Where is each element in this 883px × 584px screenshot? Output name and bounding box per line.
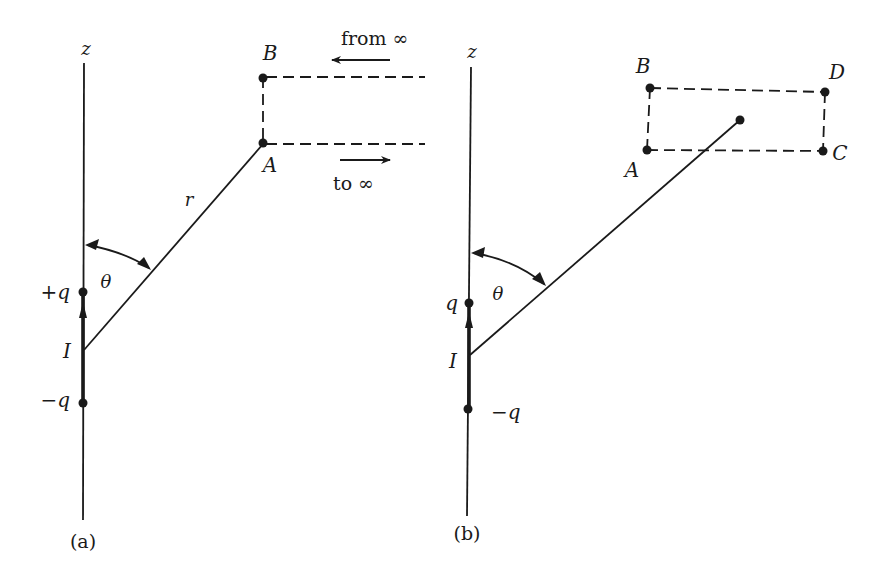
caption-b: (b) <box>454 522 481 544</box>
plus-charge-dot <box>465 299 474 308</box>
z-label-a: z <box>80 38 91 59</box>
plus-q-label-a: +q <box>40 280 70 304</box>
field-point-dot <box>736 116 745 125</box>
radius-line-b <box>470 120 740 355</box>
point-a-dot <box>643 146 652 155</box>
label-b-b: B <box>635 54 651 78</box>
radius-line-a <box>84 144 263 350</box>
dipole-arrow-icon <box>465 312 473 328</box>
plus-q-label-b: q <box>445 291 458 315</box>
label-a-b: A <box>623 158 639 182</box>
point-d-dot <box>821 88 830 97</box>
path-segment-ac <box>647 150 823 151</box>
point-a-dot <box>259 139 268 148</box>
arc-arrow-icon <box>85 239 99 250</box>
plus-charge-dot <box>79 288 88 297</box>
from-infinity-label: from ∞ <box>341 27 408 49</box>
dipole-arrow-icon <box>79 302 87 318</box>
point-c-dot <box>819 147 828 156</box>
label-b-a: B <box>262 41 278 65</box>
panel-a: z B A from ∞ to ∞ r θ +q I −q (a) <box>40 27 425 552</box>
path-segment-ab <box>647 88 650 150</box>
i-label-a: I <box>62 339 72 363</box>
r-label: r <box>185 189 195 210</box>
path-segment-dc <box>823 92 825 151</box>
minus-q-label-a: −q <box>40 388 70 412</box>
z-axis-b <box>467 67 471 516</box>
label-a-a: A <box>261 153 277 177</box>
dipole-diagram: z B A from ∞ to ∞ r θ +q I −q (a) z <box>0 0 883 584</box>
minus-q-label-b: −q <box>491 400 521 424</box>
minus-charge-dot <box>464 405 473 414</box>
theta-label-a: θ <box>101 271 112 292</box>
caption-a: (a) <box>70 530 96 552</box>
minus-charge-dot <box>79 399 88 408</box>
arc-arrow-icon <box>137 257 151 270</box>
point-b-dot <box>259 74 268 83</box>
panel-b: z B D A C θ q I −q (b) <box>445 41 847 544</box>
label-d-b: D <box>828 60 845 84</box>
theta-label-b: θ <box>493 283 504 304</box>
path-segment-bd <box>650 88 825 92</box>
arc-arrow-icon <box>471 247 485 258</box>
i-label-b: I <box>448 349 458 373</box>
point-b-dot <box>646 84 655 93</box>
label-c-b: C <box>832 141 847 165</box>
arc-arrow-icon <box>532 272 546 286</box>
z-label-b: z <box>466 41 477 62</box>
to-infinity-label: to ∞ <box>333 172 374 194</box>
